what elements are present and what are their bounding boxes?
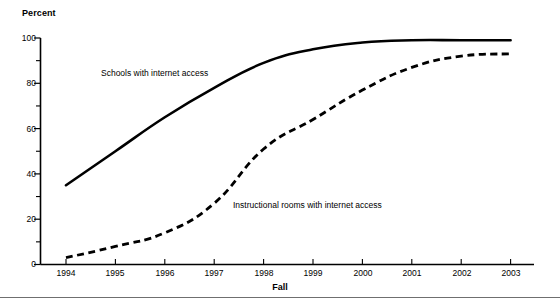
- bottom-divider: [0, 297, 560, 298]
- chart-figure: Percent 0 20 40 60 80 100 1994 1995 1996…: [0, 0, 560, 307]
- x-tick-marks: [66, 259, 511, 265]
- plot-area: [0, 0, 560, 307]
- series-line-instructional-rooms: [66, 54, 511, 258]
- y-tick-marks: [34, 38, 41, 265]
- series-line-schools: [66, 40, 511, 185]
